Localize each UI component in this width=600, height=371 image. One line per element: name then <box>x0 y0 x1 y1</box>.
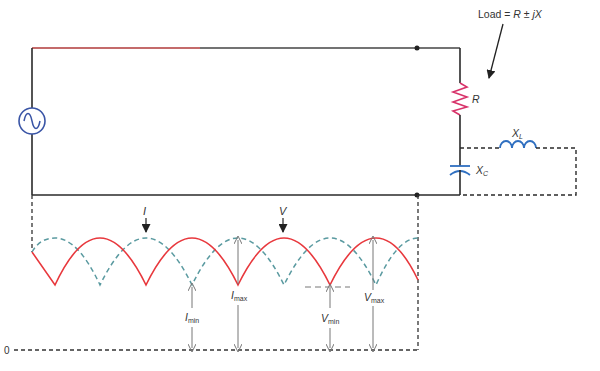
inductor-label: XL <box>511 127 523 140</box>
voltage-wave-label: V <box>279 205 288 217</box>
i-min-label: Imin <box>185 311 199 324</box>
baseline-zero-label: 0 <box>4 345 10 356</box>
ac-source-icon <box>19 108 45 134</box>
resistor-icon <box>453 83 467 115</box>
resistor-label: R <box>472 93 480 105</box>
inductor-icon <box>500 141 536 148</box>
capacitor-label: XC <box>475 164 489 177</box>
v-min-label: Vmin <box>321 312 339 325</box>
i-max-label: Imax <box>231 289 248 302</box>
node-dot-top <box>415 46 420 51</box>
circuit <box>19 24 576 198</box>
v-max-label: Vmax <box>364 291 385 304</box>
voltage-standing-wave <box>32 238 418 285</box>
current-wave-label: I <box>143 205 146 217</box>
node-dot-bottom <box>415 193 420 198</box>
load-pointer-arrow <box>489 24 503 78</box>
load-label: Load = R ± jX <box>478 8 543 20</box>
transmission-line-diagram: Load = R ± jX R XL XC I V 0 Imin Imax <box>0 0 600 371</box>
